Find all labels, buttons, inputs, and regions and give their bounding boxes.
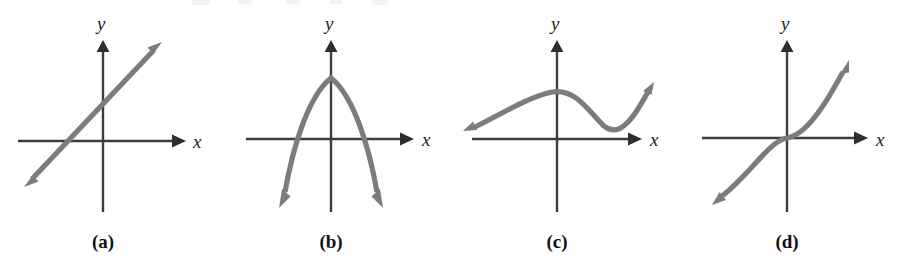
- panel-a-caption: (a): [92, 231, 114, 253]
- graph-panels-svg: x y (a) x y (b): [0, 0, 904, 275]
- panel-a-curve-line: [24, 42, 162, 187]
- panel-d-x-axis-label: x: [875, 129, 885, 150]
- panel-d-y-axis: [781, 40, 794, 212]
- panel-a-y-axis: [97, 40, 110, 212]
- panel-c-y-axis-label: y: [549, 13, 560, 34]
- panel-b-caption: (b): [319, 231, 342, 253]
- panel-a-x-axis-label: x: [192, 131, 202, 152]
- panel-c-x-axis-label: x: [649, 129, 659, 150]
- panel-b: x y (b): [246, 13, 431, 253]
- panel-d: x y (d): [702, 13, 885, 253]
- panel-d-y-axis-label: y: [779, 13, 790, 34]
- figure-container: x y (a) x y (b): [0, 0, 904, 275]
- panel-b-x-axis-label: x: [421, 129, 431, 150]
- panel-c-curve-cubic-wave: [463, 82, 654, 131]
- panel-d-caption: (d): [775, 231, 798, 253]
- panel-c-caption: (c): [546, 231, 567, 253]
- panel-b-y-axis-label: y: [323, 13, 334, 34]
- panel-a: x y (a): [18, 13, 202, 253]
- panel-b-y-axis: [325, 40, 338, 212]
- panel-a-y-axis-label: y: [95, 13, 106, 34]
- panel-d-curve-cubic: [712, 60, 849, 205]
- panel-c-y-axis: [551, 40, 564, 212]
- panel-c: x y (c): [463, 13, 659, 253]
